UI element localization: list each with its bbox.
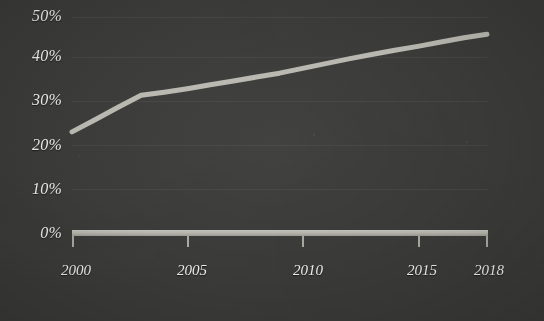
scan-speck: [313, 134, 315, 136]
x-tick-2000: [72, 236, 74, 247]
x-tick-2015: [418, 236, 420, 247]
y-tick-label-50: 50%: [32, 7, 62, 25]
x-tick-label-2018: 2018: [474, 262, 504, 279]
y-axis-labels: 50% 40% 30% 20% 10% 0%: [0, 0, 65, 321]
x-tick-label-2010: 2010: [293, 262, 323, 279]
y-tick-label-40: 40%: [32, 47, 62, 65]
scan-speck: [466, 141, 468, 143]
y-tick-label-30: 30%: [32, 91, 62, 109]
x-tick-2010: [302, 236, 304, 247]
x-tick-label-2015: 2015: [407, 262, 437, 279]
scan-speck: [78, 155, 80, 157]
x-tick-2018: [486, 236, 488, 247]
x-tick-label-2000: 2000: [61, 262, 91, 279]
x-tick-2005: [187, 236, 189, 247]
y-tick-label-20: 20%: [32, 136, 62, 154]
y-tick-label-10: 10%: [32, 180, 62, 198]
chart-screenshot: 50% 40% 30% 20% 10% 0% 2000 2005 2010 20…: [0, 0, 544, 321]
y-tick-label-0: 0%: [40, 224, 62, 242]
x-tick-label-2005: 2005: [177, 262, 207, 279]
x-axis-line: [72, 230, 488, 236]
